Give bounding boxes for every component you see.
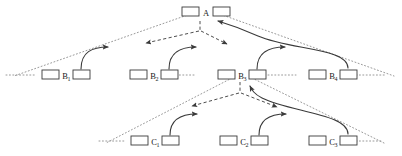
node-c3-left-box[interactable] [309, 136, 326, 145]
arrow-c2-to-c3 [259, 114, 286, 135]
node-c1[interactable]: C 1 [131, 136, 179, 148]
arrow-c1-to-c2 [170, 114, 197, 135]
node-b2-sublabel: 2 [156, 76, 159, 82]
node-c3-sublabel: 3 [335, 142, 338, 148]
node-b4[interactable]: B 4 [309, 70, 357, 82]
node-a-right-box[interactable] [213, 7, 230, 16]
arrow-c3-to-b3 [250, 86, 348, 134]
expand-a-right-arrow [201, 31, 227, 44]
node-b1-sublabel: 1 [68, 76, 71, 82]
node-c2-sublabel: 2 [246, 142, 249, 148]
node-c1-sublabel: 1 [157, 142, 160, 148]
node-a-label: A [203, 8, 210, 18]
node-a[interactable]: A [182, 7, 230, 18]
arrow-b4-to-a [218, 21, 348, 68]
arrow-b1-to-b2 [81, 47, 108, 69]
expand-a-left-arrow [146, 31, 199, 43]
node-c1-left-box[interactable] [131, 136, 148, 145]
node-b1-left-box[interactable] [42, 70, 59, 79]
node-b3[interactable]: B 3 [218, 70, 266, 82]
cone-a-right-edge [214, 12, 394, 76]
node-b3-left-box[interactable] [218, 70, 235, 79]
node-c1-right-box[interactable] [162, 136, 179, 145]
node-b4-left-box[interactable] [309, 70, 326, 79]
node-b4-right-box[interactable] [340, 70, 357, 79]
node-b4-sublabel: 4 [335, 76, 338, 82]
node-b2[interactable]: B 2 [130, 70, 178, 82]
node-c3[interactable]: C 3 [309, 136, 357, 148]
cone-b3-left-edge [106, 78, 232, 143]
arrow-b2-to-b3 [169, 47, 196, 69]
node-b1-right-box[interactable] [73, 70, 90, 79]
node-b2-left-box[interactable] [130, 70, 147, 79]
node-c2[interactable]: C 2 [220, 136, 268, 148]
tree-traversal-diagram: A B 1 B 2 B 3 B 4 [0, 0, 402, 156]
node-c3-right-box[interactable] [340, 136, 357, 145]
node-c2-right-box[interactable] [251, 136, 268, 145]
node-b3-sublabel: 3 [244, 76, 247, 82]
node-a-left-box[interactable] [182, 7, 199, 16]
expand-b3-right-arrow [241, 93, 277, 107]
diagram-canvas: A B 1 B 2 B 3 B 4 [0, 0, 402, 156]
node-c2-left-box[interactable] [220, 136, 237, 145]
arrow-b3-to-b4 [257, 47, 285, 69]
node-b2-right-box[interactable] [161, 70, 178, 79]
node-b1[interactable]: B 1 [42, 70, 90, 82]
cone-b3-right-edge [252, 78, 384, 143]
node-b3-right-box[interactable] [249, 70, 266, 79]
